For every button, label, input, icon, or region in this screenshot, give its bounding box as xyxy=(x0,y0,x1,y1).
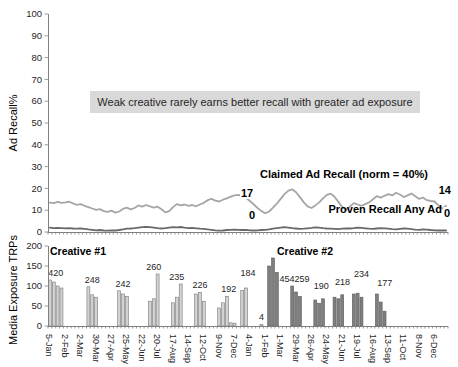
y-tick-label: 80 xyxy=(31,52,42,63)
y-tick-label: 30 xyxy=(31,161,42,172)
bar-value-label: 259 xyxy=(295,274,310,284)
y-tick-label: 70 xyxy=(31,74,42,85)
ad-recall-trp-chart: 4202482422602352261921844454259190218234… xyxy=(0,0,458,367)
claimed-endpoint-label-end: 14 xyxy=(438,184,452,196)
bottom-y-axis-title: Media Exposure TRPs xyxy=(7,215,21,365)
bar-value-label: 226 xyxy=(192,280,207,290)
y-tick-label: 0 xyxy=(37,320,42,331)
y-tick-label: 20 xyxy=(31,183,42,194)
x-axis-date-label: 2-Mar xyxy=(75,334,85,358)
proven-recall-line xyxy=(50,227,446,231)
y-tick-label: 200 xyxy=(26,240,42,251)
claimed-recall-series-label: Claimed Ad Recall (norm = 40%) xyxy=(260,168,428,180)
trp-bars xyxy=(48,258,386,326)
x-axis-date-label: 13-Sep xyxy=(383,334,393,363)
bar-value-label: 190 xyxy=(314,281,329,291)
bars-series-1 xyxy=(268,258,386,326)
bar-value-label: 242 xyxy=(115,279,130,289)
bars-series-0 xyxy=(48,274,262,326)
bar-value-label: 177 xyxy=(377,278,392,288)
y-tick-labels: 0102030405060708090100050100150200 xyxy=(26,8,48,331)
y-tick-label: 100 xyxy=(26,280,42,291)
x-axis-date-label: 20-Jul xyxy=(152,334,162,359)
bar-value-label: 192 xyxy=(221,284,236,294)
claimed-endpoint-label-mid: 17 xyxy=(240,187,254,199)
x-axis-date-label: 9-Nov xyxy=(214,334,224,359)
bar-value-label: 184 xyxy=(241,268,256,278)
x-axis-date-label: 17-Aug xyxy=(168,334,178,363)
x-axis-date-label: 1-Feb xyxy=(260,334,270,358)
x-axis-date-label: 4-Jan xyxy=(244,334,254,357)
bar-value-label: 248 xyxy=(85,275,100,285)
x-axis-date-label: 26-Apr xyxy=(306,334,316,361)
x-axis-date-label: 5-Jan xyxy=(44,334,54,357)
y-tick-label: 40 xyxy=(31,139,42,150)
x-axis-date-label: 16-Aug xyxy=(368,334,378,363)
creative-1-group-label: Creative #1 xyxy=(50,245,106,257)
bar-value-label: 454 xyxy=(279,274,294,284)
bar-value-label: 4 xyxy=(259,312,264,322)
proven-endpoint-label-end: 0 xyxy=(443,207,451,219)
x-axis-date-label: 25-May xyxy=(121,334,131,365)
x-axis-date-label: 14-Sep xyxy=(183,334,193,363)
x-axis-date-label: 8-Nov xyxy=(414,334,424,359)
x-axis-date-label: 7-Dec xyxy=(229,334,239,359)
annotation-box: Weak creative rarely earns better recall… xyxy=(90,91,420,113)
x-axis-date-label: 30-Mar xyxy=(91,334,101,363)
y-tick-label: 0 xyxy=(37,226,42,237)
bar-value-label: 260 xyxy=(146,262,161,272)
y-tick-label: 100 xyxy=(26,8,42,19)
x-axis-date-label: 2-Feb xyxy=(60,334,70,358)
x-axis-date-label: 22-Jun xyxy=(137,334,147,362)
x-axis-date-label: 29-Mar xyxy=(291,334,301,363)
creative-2-group-label: Creative #2 xyxy=(277,245,333,257)
bar-value-label: 235 xyxy=(169,272,184,282)
x-category-labels: 5-Jan2-Feb2-Mar30-Mar27-Apr25-May22-Jun2… xyxy=(44,334,439,365)
bar-value-label: 420 xyxy=(48,268,63,278)
top-y-axis-title: Ad Recall% xyxy=(7,63,21,183)
x-axis-date-label: 12-Oct xyxy=(198,334,208,362)
x-axis-date-label: 11-Oct xyxy=(398,334,408,361)
x-axis-date-label: 27-Apr xyxy=(106,334,116,361)
y-tick-label: 60 xyxy=(31,95,42,106)
bar-value-label: 218 xyxy=(335,277,350,287)
y-tick-label: 90 xyxy=(31,30,42,41)
bar-value-label: 234 xyxy=(354,269,369,279)
proven-endpoint-label-mid: 0 xyxy=(248,209,256,221)
x-axis-date-label: 19-Jul xyxy=(352,334,362,359)
x-axis-date-label: 6-Dec xyxy=(429,334,439,359)
proven-recall-series-label: Proven Recall Any Ad xyxy=(329,203,443,215)
y-tick-label: 10 xyxy=(31,204,42,215)
y-tick-label: 150 xyxy=(26,260,42,271)
y-tick-label: 50 xyxy=(31,300,42,311)
y-tick-label: 50 xyxy=(31,117,42,128)
x-axis-date-label: 21-Jun xyxy=(337,334,347,362)
x-axis-date-label: 1-Mar xyxy=(275,334,285,358)
x-axis-date-label: 24-May xyxy=(321,334,331,365)
plot-canvas: 4202482422602352261921844454259190218234… xyxy=(0,0,458,367)
